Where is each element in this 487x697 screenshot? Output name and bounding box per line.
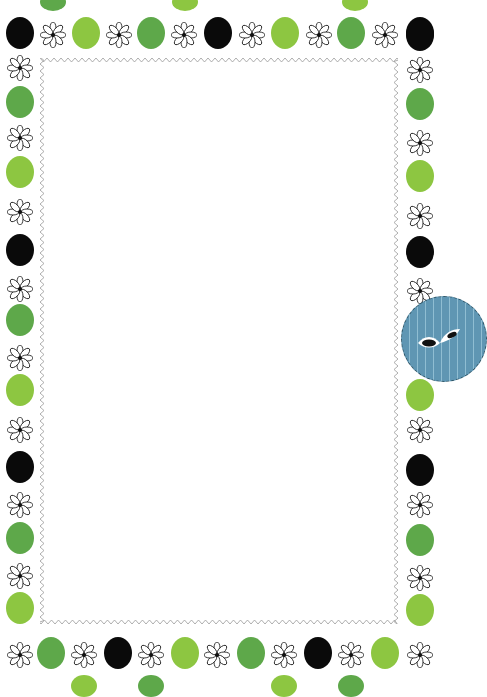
polka-dot [338,675,364,697]
polka-dot [71,675,97,697]
polka-dot [137,17,165,49]
polka-dot [204,17,232,49]
polka-dot [6,592,34,624]
daisy-icon [407,130,433,156]
polka-dot [40,0,66,11]
daisy-icon [372,22,398,48]
zigzag-border [40,58,398,624]
daisy-icon [407,565,433,591]
daisy-icon [7,199,33,225]
polka-dot [6,156,34,188]
daisy-icon [7,642,33,668]
polka-dot [6,374,34,406]
daisy-icon [71,642,97,668]
daisy-icon [7,417,33,443]
daisy-icon [7,492,33,518]
daisy-icon [7,125,33,151]
polka-dot [271,675,297,697]
polka-dot [37,637,65,669]
daisy-icon [7,55,33,81]
blank-frame-panel [40,58,398,624]
daisy-icon [407,492,433,518]
polka-dot [406,160,434,192]
polka-dot [406,236,434,268]
leaf-icon [416,325,476,355]
polka-dot [371,637,399,669]
polka-dot [72,17,100,49]
polka-dot [6,234,34,266]
daisy-icon [407,57,433,83]
polka-dot [271,17,299,49]
polka-dot [304,637,332,669]
daisy-icon [171,22,197,48]
daisy-icon [239,22,265,48]
daisy-icon [7,345,33,371]
daisy-icon [138,642,164,668]
polka-dot [406,454,434,486]
polka-dot [171,637,199,669]
daisy-icon [204,642,230,668]
daisy-icon [407,642,433,668]
polka-dot [6,522,34,554]
polka-dot [138,675,164,697]
polka-dot [406,379,434,411]
daisy-icon [7,276,33,302]
polka-dot [237,637,265,669]
daisy-icon [271,642,297,668]
polka-dot [406,524,434,556]
daisy-icon [7,563,33,589]
polka-dot [406,594,434,626]
daisy-icon [40,22,66,48]
daisy-icon [407,203,433,229]
blue-button-badge [401,296,487,382]
daisy-icon [338,642,364,668]
polka-dot [406,88,434,120]
polka-dot [172,0,198,11]
polka-dot [6,86,34,118]
polka-dot [337,17,365,49]
polka-dot [104,637,132,669]
polka-dot [6,17,34,49]
polka-dot [342,0,368,11]
daisy-icon [306,22,332,48]
polka-dot [406,19,434,51]
daisy-icon [106,22,132,48]
polka-dot [6,304,34,336]
daisy-icon [407,417,433,443]
polka-dot [6,451,34,483]
